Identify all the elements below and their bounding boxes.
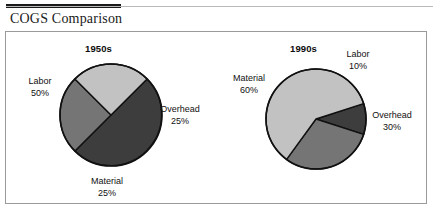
pie-title-1990s: 1990s [290,43,317,54]
header-rule-line [6,6,433,7]
slice-label-name: Material [233,73,265,83]
page-title: COGS Comparison [10,11,122,27]
slice-label-name: Labor [28,76,51,86]
slice-label-name: Overhead [372,110,412,120]
slice-label-name: Labor [346,49,369,59]
slice-label-percent: 50% [16,88,64,100]
slice-label-percent: 25% [80,188,134,200]
slice-label-percent: 60% [224,85,274,97]
slice-label-percent: 25% [152,116,208,128]
slice-label-1990s-material: Material60% [224,73,274,96]
slice-label-name: Material [91,176,123,186]
slice-label-percent: 10% [337,61,379,73]
slice-label-1990s-labor: Labor10% [337,49,379,72]
slice-label-1990s-overhead: Overhead30% [364,110,420,133]
slice-label-percent: 30% [364,122,420,134]
pie-title-1950s: 1950s [85,43,112,54]
slice-label-1950s-labor: Labor50% [16,76,64,99]
slice-label-name: Overhead [160,104,200,114]
slice-label-1950s-overhead: Overhead25% [152,104,208,127]
page-root: COGS Comparison 1950s1990sLabor50%Overhe… [0,0,439,220]
slice-label-1950s-material: Material25% [80,176,134,199]
